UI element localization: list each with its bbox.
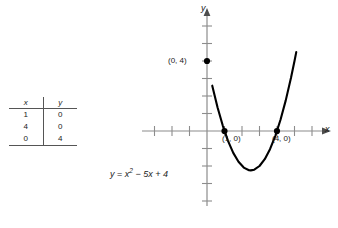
x-axis-label: x [325, 124, 330, 134]
point-label-1-0: (1, 0) [222, 134, 241, 143]
point-label-4-0: (4, 0) [272, 134, 291, 143]
point-label-0-4: (0, 4) [168, 56, 187, 65]
graph-svg [0, 0, 338, 228]
graph-area: y x (0, 4) (1, 0) (4, 0) [0, 0, 338, 228]
figure-canvas: x y 1 0 4 0 0 4 y = x2 − 5x + 4 [0, 0, 338, 228]
point-marker-0-4 [204, 58, 210, 64]
parabola-curve [212, 52, 296, 170]
y-axis-label: y [201, 3, 206, 13]
